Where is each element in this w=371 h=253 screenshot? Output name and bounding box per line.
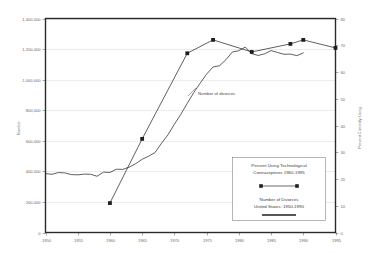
data-point-marker bbox=[140, 137, 144, 141]
left-axis-ticks: 0200,000400,000600,000800,0001,000,0001,… bbox=[22, 17, 45, 236]
x-tick-label: 1950 bbox=[42, 238, 52, 243]
x-tick-label: 1970 bbox=[170, 238, 180, 243]
right-tick-label: 10 bbox=[341, 204, 346, 209]
left-tick-label: 1,200,000 bbox=[22, 47, 41, 52]
chart-svg: 0200,000400,000600,000800,0001,000,0001,… bbox=[0, 0, 371, 253]
legend-series1-line2: Contraceptives 1960-1995 bbox=[253, 170, 305, 175]
data-point-marker bbox=[108, 201, 112, 205]
left-tick-label: 200,000 bbox=[26, 200, 42, 205]
x-tick-label: 1965 bbox=[138, 238, 148, 243]
left-tick-label: 800,000 bbox=[26, 108, 42, 113]
right-axis-ticks: 01020304050607080 bbox=[336, 17, 346, 236]
legend-marker-right bbox=[295, 184, 299, 188]
right-tick-label: 60 bbox=[341, 70, 346, 75]
right-tick-label: 20 bbox=[341, 177, 346, 182]
right-tick-label: 50 bbox=[341, 97, 346, 102]
right-tick-label: 30 bbox=[341, 150, 346, 155]
x-tick-label: 1960 bbox=[106, 238, 116, 243]
left-tick-label: 0 bbox=[38, 231, 41, 236]
right-axis-title: Percent Currently Using bbox=[357, 107, 362, 148]
right-tick-label: 70 bbox=[341, 43, 346, 48]
legend-series1-line1: Percent Using Technological bbox=[251, 163, 306, 168]
data-point-marker bbox=[301, 38, 305, 42]
x-tick-label: 1990 bbox=[299, 238, 309, 243]
data-point-marker bbox=[211, 38, 215, 42]
left-axis-title: Number bbox=[16, 120, 21, 135]
left-tick-label: 600,000 bbox=[26, 139, 42, 144]
x-tick-label: 1980 bbox=[235, 238, 245, 243]
legend-series2-line2: United States: 1950-1990 bbox=[254, 204, 304, 209]
x-tick-label: 1975 bbox=[203, 238, 213, 243]
right-tick-label: 0 bbox=[341, 231, 344, 236]
legend-marker-left bbox=[259, 184, 263, 188]
right-tick-label: 80 bbox=[341, 17, 346, 22]
chart-figure: 0200,000400,000600,000800,0001,000,0001,… bbox=[0, 0, 371, 253]
left-tick-label: 400,000 bbox=[26, 169, 42, 174]
x-axis-ticks: 1950195519601965197019751980198519901995 bbox=[42, 233, 342, 244]
x-tick-label: 1985 bbox=[267, 238, 277, 243]
left-tick-label: 1,000,000 bbox=[22, 78, 41, 83]
legend-series2-line1: Number of Divorces bbox=[260, 197, 300, 202]
right-tick-label: 40 bbox=[341, 124, 346, 129]
data-point-marker bbox=[288, 42, 292, 46]
divorces-annotation: Number of divorces bbox=[198, 91, 235, 96]
x-tick-label: 1955 bbox=[74, 238, 84, 243]
series-line-0 bbox=[46, 47, 304, 176]
legend: Percent Using Technological Contraceptiv… bbox=[233, 158, 326, 221]
data-point-marker bbox=[185, 51, 189, 55]
x-tick-label: 1995 bbox=[332, 238, 342, 243]
data-point-marker bbox=[250, 50, 254, 54]
left-tick-label: 1,400,000 bbox=[22, 17, 41, 22]
data-point-marker bbox=[334, 46, 338, 50]
